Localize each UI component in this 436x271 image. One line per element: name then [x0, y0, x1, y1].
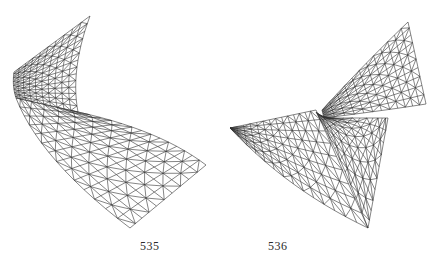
figure-536 — [218, 0, 436, 271]
wireframe-surface-536 — [218, 0, 436, 271]
figure-535 — [0, 0, 218, 271]
figure-caption-535: 535 — [140, 239, 160, 254]
wireframe-surface-535 — [0, 0, 218, 271]
figure-caption-536: 536 — [268, 239, 288, 254]
